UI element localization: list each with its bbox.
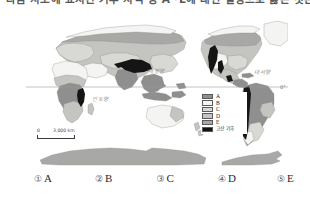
choice-1-number: ①: [34, 174, 42, 184]
legend-swatch-c: [202, 107, 213, 112]
choice-5-number: ⑤: [277, 174, 285, 184]
choice-3-number: ③: [156, 174, 164, 184]
legend-swatch-b: [202, 100, 213, 105]
choice-2[interactable]: ② B: [95, 172, 112, 184]
question-stem-strip: 다음 지도에 표시된 기후 지역 중 A~E에 대한 설명으로 옳은 것은?: [0, 0, 310, 5]
choice-3[interactable]: ③ C: [156, 172, 173, 184]
legend-item-c: C: [202, 106, 246, 113]
choice-2-label: B: [105, 172, 112, 184]
legend-item-a: A: [202, 93, 246, 100]
choice-2-number: ②: [95, 174, 103, 184]
ocean-label-atlantic: 대서양: [254, 68, 271, 76]
choice-1[interactable]: ① A: [34, 172, 52, 184]
scale-bar: 0 3,000 km: [37, 128, 93, 142]
ocean-label-indian: 인도양: [92, 95, 109, 103]
world-climate-map: 태평양 대서양 인도양 0° 0 3,000 km A B C: [26, 12, 288, 170]
equator-degree-label: 0°: [280, 84, 286, 90]
map-legend: A B C D E 고산 기후: [201, 92, 247, 134]
world-map-graphic: [26, 12, 288, 170]
choice-4-number: ④: [218, 174, 226, 184]
legend-label-b: B: [216, 100, 220, 107]
answer-choices: ① A ② B ③ C ④ D ⑤ E: [0, 172, 310, 196]
legend-label-highland: 고산 기후: [216, 126, 234, 133]
choice-4-label: D: [228, 172, 236, 184]
choice-1-label: A: [44, 172, 52, 184]
legend-item-b: B: [202, 100, 246, 107]
choice-5[interactable]: ⑤ E: [277, 172, 294, 184]
legend-item-d: D: [202, 113, 246, 120]
scale-bar-max: 3,000 km: [53, 128, 109, 133]
choice-4[interactable]: ④ D: [218, 172, 236, 184]
legend-item-e: E: [202, 119, 246, 126]
question-stem: 다음 지도에 표시된 기후 지역 중 A~E에 대한 설명으로 옳은 것은?: [0, 0, 310, 5]
legend-item-highland: 고산 기후: [202, 126, 246, 133]
climate-map-figure: 태평양 대서양 인도양 0° 0 3,000 km A B C: [0, 12, 310, 170]
legend-swatch-highland: [202, 127, 213, 132]
legend-label-d: D: [216, 113, 220, 120]
ocean-label-pacific: 태평양: [148, 67, 165, 75]
legend-label-c: C: [216, 106, 220, 113]
legend-swatch-d: [202, 113, 213, 118]
legend-label-e: E: [216, 119, 219, 126]
legend-swatch-a: [202, 94, 213, 99]
legend-swatch-e: [202, 120, 213, 125]
scale-bar-rule: [37, 135, 75, 139]
choice-3-label: C: [167, 172, 174, 184]
legend-label-a: A: [216, 93, 220, 100]
choice-5-label: E: [287, 172, 294, 184]
